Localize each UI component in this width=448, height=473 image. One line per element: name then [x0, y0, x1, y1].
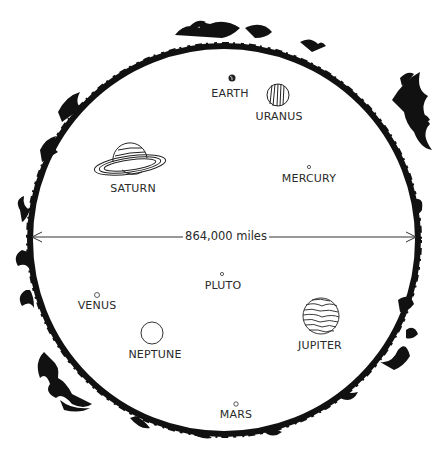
saturn-icon [93, 143, 167, 179]
earth-icon [229, 75, 236, 82]
mercury-icon [307, 165, 310, 168]
planet-label-venus: VENUS [78, 300, 117, 311]
diameter-label: 864,000 miles [183, 231, 269, 243]
mars-icon [234, 402, 238, 406]
planet-label-saturn: SATURN [110, 183, 156, 194]
planet-label-mars: MARS [220, 409, 252, 420]
planet-label-uranus: URANUS [255, 111, 302, 122]
jupiter-icon [303, 298, 339, 334]
uranus-icon [267, 84, 289, 106]
planet-label-jupiter: JUPITER [298, 340, 342, 351]
sun-diagram: 864,000 miles EARTH URANUS SATURN MERCUR… [0, 0, 448, 473]
planet-label-earth: EARTH [211, 88, 248, 99]
venus-icon [95, 293, 100, 298]
planet-label-mercury: MERCURY [282, 173, 336, 184]
planet-label-pluto: PLUTO [205, 280, 242, 291]
pluto-icon [220, 272, 223, 275]
planet-label-neptune: NEPTUNE [128, 349, 181, 360]
neptune-icon [141, 322, 163, 344]
